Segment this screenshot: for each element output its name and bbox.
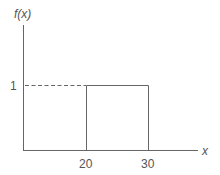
x-tick-20: 20: [79, 157, 93, 171]
y-tick-1: 1: [10, 79, 17, 93]
y-axis-label: f(x): [14, 7, 31, 21]
uniform-density-chart: f(x) x 1 20 30: [0, 0, 220, 175]
x-tick-30: 30: [141, 157, 155, 171]
density-rectangle: [87, 86, 149, 151]
x-axis-label: x: [201, 144, 209, 158]
